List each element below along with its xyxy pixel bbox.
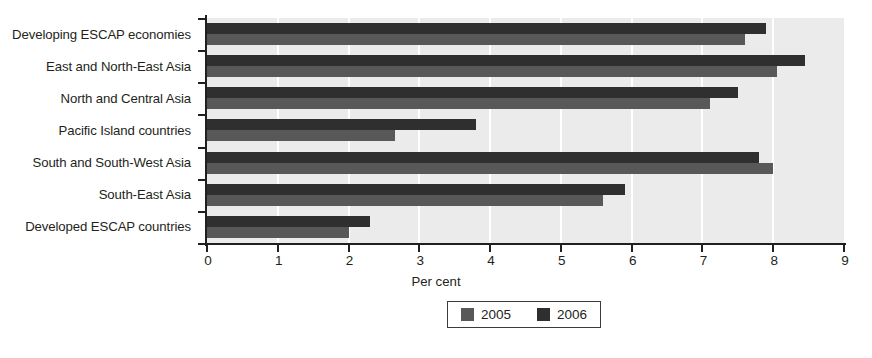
x-axis-tick [843,244,845,252]
x-axis-tick [277,244,279,252]
x-axis-tick-label: 8 [754,253,794,268]
bar-chart: Developing ESCAP economiesEast and North… [0,0,872,358]
category-label: Developing ESCAP economies [0,18,200,50]
legend-item[interactable]: 2006 [537,307,587,322]
x-axis-tick [560,244,562,252]
bar-2005[interactable] [207,66,777,77]
bar-2006[interactable] [207,184,625,195]
x-axis-title: Per cent [0,274,872,289]
x-axis-tick [701,244,703,252]
category-label: East and North-East Asia [0,50,200,82]
bar-2006[interactable] [207,119,476,130]
x-axis-tick [206,244,208,252]
x-axis-tick [348,244,350,252]
bar-2005[interactable] [207,130,395,141]
y-axis-tick [198,82,206,84]
y-axis-tick [198,243,206,245]
bar-2006[interactable] [207,87,738,98]
legend-swatch-icon [537,308,550,321]
x-axis-line [205,243,846,245]
x-axis-tick-label: 6 [613,253,653,268]
bar-group [207,18,844,50]
category-axis-labels: Developing ESCAP economiesEast and North… [0,18,200,243]
bar-group [207,211,844,243]
x-axis-tick-label: 5 [542,253,582,268]
x-axis-tick-label: 4 [471,253,511,268]
legend-swatch-icon [461,308,474,321]
bar-2006[interactable] [207,152,759,163]
legend-label: 2005 [481,307,511,322]
bar-2005[interactable] [207,227,349,238]
x-axis-tick-label: 0 [188,253,228,268]
x-axis-tick [772,244,774,252]
y-axis-tick [198,211,206,213]
bar-group [207,147,844,179]
bar-groups [207,18,844,243]
y-axis-tick [198,114,206,116]
y-axis-tick [198,50,206,52]
y-axis-tick [198,147,206,149]
x-axis-tick [631,244,633,252]
bar-group [207,179,844,211]
x-axis-tick [489,244,491,252]
plot-area [207,18,844,243]
bar-2005[interactable] [207,195,603,206]
bar-group [207,50,844,82]
x-axis-tick [418,244,420,252]
bar-2005[interactable] [207,163,773,174]
bar-2006[interactable] [207,55,805,66]
bar-2005[interactable] [207,98,710,109]
chart-legend: 20052006 [447,301,601,328]
category-label: Developed ESCAP countries [0,211,200,243]
category-label: North and Central Asia [0,82,200,114]
category-label: Pacific Island countries [0,114,200,146]
legend-item[interactable]: 2005 [461,307,511,322]
y-axis-tick [198,18,206,20]
bar-group [207,82,844,114]
x-axis-tick-label: 2 [330,253,370,268]
x-axis-tick-label: 7 [683,253,723,268]
y-axis-tick [198,179,206,181]
category-label: South-East Asia [0,179,200,211]
bar-group [207,114,844,146]
x-axis-tick-label: 3 [400,253,440,268]
legend-label: 2006 [557,307,587,322]
x-axis-tick-label: 9 [825,253,865,268]
category-label: South and South-West Asia [0,147,200,179]
bar-2006[interactable] [207,23,766,34]
bar-2006[interactable] [207,216,370,227]
bar-2005[interactable] [207,34,745,45]
x-axis-tick-label: 1 [259,253,299,268]
